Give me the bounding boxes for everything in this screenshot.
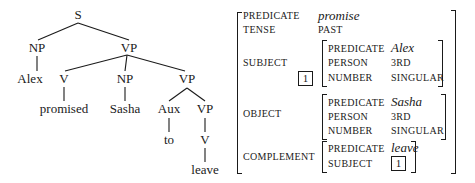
object-predicate-value: Sasha: [391, 94, 422, 110]
object-number-label: NUMBER: [328, 125, 373, 136]
feature-subject-label: SUBJECT: [243, 57, 287, 68]
outer-left-bracket: [237, 12, 242, 174]
object-person-value: 3RD: [391, 111, 411, 122]
feature-tense-value: PAST: [318, 24, 343, 35]
outer-right-bracket: [451, 10, 456, 174]
feature-predicate-value: promise: [318, 8, 359, 24]
object-person-label: PERSON: [328, 111, 368, 122]
object-predicate-label: PREDICATE: [328, 97, 385, 108]
complement-subject-label: SUBJECT: [328, 158, 372, 169]
feature-predicate-label: PREDICATE: [243, 10, 300, 21]
complement-predicate-label: PREDICATE: [328, 143, 385, 154]
subject-coindex-tag: 1: [298, 71, 313, 86]
object-number-value: SINGULAR: [391, 125, 444, 136]
feature-complement-label: COMPLEMENT: [243, 151, 315, 162]
feature-object-label: OBJECT: [243, 108, 281, 119]
subject-person-value: 3RD: [391, 57, 411, 68]
object-left-bracket: [322, 94, 327, 140]
subject-predicate-label: PREDICATE: [328, 43, 385, 54]
subject-person-label: PERSON: [328, 57, 368, 68]
subject-predicate-value: Alex: [391, 40, 414, 56]
subject-left-bracket: [322, 40, 327, 87]
subject-number-value: SINGULAR: [391, 72, 444, 83]
complement-subject-coindex-tag: 1: [391, 156, 406, 171]
attribute-value-matrix: PREDICATE promise TENSE PAST SUBJECT 1 P…: [0, 0, 475, 183]
subject-number-label: NUMBER: [328, 72, 373, 83]
complement-predicate-value: leave: [391, 140, 418, 156]
complement-left-bracket: [322, 141, 327, 173]
feature-tense-label: TENSE: [243, 24, 276, 35]
